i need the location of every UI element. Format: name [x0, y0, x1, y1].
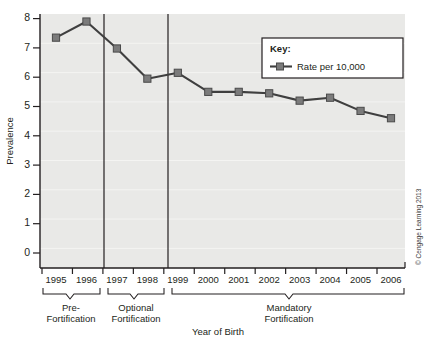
copyright-credit: © Cengage Learning 2013: [415, 188, 423, 265]
data-point-2000: [205, 88, 212, 95]
x-tick-label-2001: 2001: [228, 274, 249, 285]
y-tick-label-3: 3: [24, 158, 30, 170]
data-point-2003: [296, 97, 303, 104]
legend-marker-swatch: [277, 63, 284, 70]
x-tick-label-2004: 2004: [320, 274, 341, 285]
x-tick-label-1997: 1997: [106, 274, 127, 285]
data-point-2005: [357, 107, 364, 114]
x-tick-label-1996: 1996: [76, 274, 97, 285]
x-tick-label-2006: 2006: [380, 274, 401, 285]
x-tick-label-2000: 2000: [198, 274, 219, 285]
group-label-mandatory-fortification-line2: Fortification: [264, 313, 313, 324]
group-bracket-pre-fortification: Pre- Fortification: [43, 288, 100, 324]
data-point-2006: [387, 115, 394, 122]
y-tick-label-4: 4: [24, 129, 30, 141]
data-point-1998: [144, 75, 151, 82]
y-tick-label-6: 6: [24, 70, 30, 82]
legend-title: Key:: [270, 43, 291, 54]
y-tick-label-0: 0: [24, 246, 30, 258]
group-label-mandatory-fortification-line1: Mandatory: [267, 302, 312, 313]
y-axis-title: Prevalence: [4, 117, 15, 165]
x-tick-label-1998: 1998: [137, 274, 158, 285]
chart-legend[interactable]: Key: Rate per 10,000: [262, 38, 403, 78]
chart-figure: 8 7 6 5 4 3 2 1 0 Prevalence 19951996199…: [0, 0, 435, 338]
data-point-2002: [266, 90, 273, 97]
y-tick-label-7: 7: [24, 41, 30, 53]
y-tick-label-2: 2: [24, 187, 30, 199]
group-label-optional-fortification-line2: Fortification: [111, 313, 160, 324]
x-tick-label-1995: 1995: [45, 274, 66, 285]
y-axis-ticks: [33, 19, 40, 253]
data-point-1995: [52, 34, 59, 41]
group-bracket-optional-fortification: Optional Fortification: [108, 288, 164, 324]
group-label-pre-fortification-line1: Pre-: [62, 302, 80, 313]
data-point-2004: [326, 94, 333, 101]
data-point-1996: [83, 18, 90, 25]
x-tick-label-2002: 2002: [259, 274, 280, 285]
y-tick-label-1: 1: [24, 216, 30, 228]
data-point-2001: [235, 88, 242, 95]
group-label-pre-fortification-line2: Fortification: [46, 313, 95, 324]
data-point-1997: [113, 45, 120, 52]
legend-entry-label: Rate per 10,000: [297, 61, 365, 72]
x-axis-title: Year of Birth: [192, 326, 244, 337]
y-tick-label-5: 5: [24, 99, 30, 111]
group-bracket-mandatory-fortification: Mandatory Fortification: [172, 288, 404, 324]
x-axis-tick-labels: 1995199619971998199920002001200220032004…: [45, 274, 401, 285]
prevalence-line-chart: 8 7 6 5 4 3 2 1 0 Prevalence 19951996199…: [0, 0, 435, 338]
x-tick-label-2005: 2005: [350, 274, 371, 285]
y-tick-label-8: 8: [24, 11, 30, 23]
x-tick-label-2003: 2003: [289, 274, 310, 285]
data-point-1999: [174, 69, 181, 76]
x-tick-label-1999: 1999: [167, 274, 188, 285]
group-label-optional-fortification-line1: Optional: [118, 302, 153, 313]
